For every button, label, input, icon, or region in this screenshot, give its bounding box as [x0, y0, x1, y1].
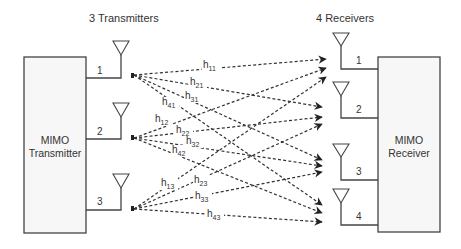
rx-antenna-3: 3	[333, 144, 378, 180]
tx-antenna-2: 2	[86, 103, 129, 139]
label-h23: h23	[193, 174, 211, 187]
label-h11: h11	[202, 59, 220, 72]
tx-antenna-1: 1	[86, 41, 129, 78]
channel-h11	[134, 59, 326, 75]
channel-h23	[134, 124, 322, 209]
transmitter-label-line2: Transmitter	[29, 147, 82, 159]
rx-antenna-4: 4	[333, 189, 378, 225]
receiver-label-line1: MIMO	[395, 134, 424, 146]
rx-port-3-label: 3	[356, 166, 362, 177]
rx-antenna-2: 2	[333, 82, 378, 118]
label-h12: h12	[154, 113, 172, 126]
channel-labels: h11 h21 h31 h41 h12 h22 h32 h42	[154, 59, 224, 221]
tx-source-1	[131, 73, 134, 78]
transmitters-header: 3 Transmitters	[89, 12, 159, 24]
label-h43: h43	[206, 208, 224, 221]
label-h33: h33	[194, 190, 212, 203]
receiver-label-line2: Receiver	[388, 147, 430, 159]
antenna-icon	[333, 33, 349, 46]
rx-port-2-label: 2	[356, 104, 362, 115]
antenna-icon	[113, 103, 129, 117]
mimo-receiver-block: MIMO Receiver	[378, 57, 440, 232]
antenna-icon	[113, 41, 129, 55]
tx-antenna-3: 3	[86, 174, 129, 210]
rx-port-1-label: 1	[356, 55, 362, 66]
tx-source-2	[131, 135, 134, 140]
antenna-icon	[333, 144, 349, 157]
channel-h43	[134, 209, 322, 222]
rx-antenna-1: 1	[333, 33, 378, 69]
transmitter-label-line1: MIMO	[41, 134, 70, 146]
receivers-header: 4 Receivers	[316, 12, 375, 24]
mimo-transmitter-block: MIMO Transmitter	[24, 57, 86, 233]
tx-port-2-label: 2	[97, 126, 103, 137]
label-h42: h42	[171, 144, 189, 157]
antenna-icon	[333, 82, 349, 96]
label-h31: h31	[184, 90, 202, 103]
rx-port-4-label: 4	[356, 211, 362, 222]
tx-port-3-label: 3	[97, 196, 103, 207]
channel-h32	[134, 138, 322, 166]
label-h21: h21	[189, 76, 207, 89]
antenna-icon	[333, 189, 349, 203]
label-h41: h41	[161, 96, 179, 109]
channels-from-tx2	[134, 68, 326, 213]
mimo-diagram: 3 Transmitters 4 Receivers MIMO Transmit…	[0, 0, 461, 249]
antenna-icon	[113, 174, 129, 188]
tx-port-1-label: 1	[97, 65, 103, 76]
label-h13: h13	[160, 177, 178, 190]
channel-h42	[134, 138, 322, 213]
tx-source-3	[131, 206, 134, 211]
